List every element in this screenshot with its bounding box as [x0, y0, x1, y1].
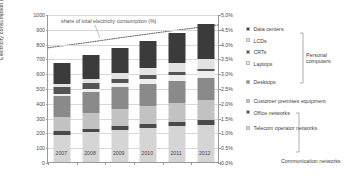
chart-figure: 00.0%1000.5%2001.0%3001.5%4002.0%5002.5%… [0, 0, 349, 192]
legend-group-communication-networks: Communication networks [281, 158, 343, 164]
legend-group-personal-computers: Personal computers [306, 52, 348, 64]
